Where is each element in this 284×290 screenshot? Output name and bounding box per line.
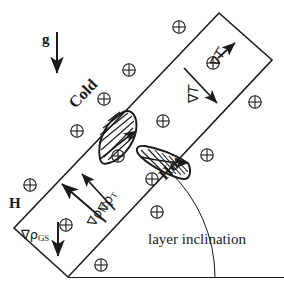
magnetic-field-label: H: [9, 196, 21, 211]
circled-plus-icon: [201, 149, 213, 161]
figure-canvas: g H Cold Hot ∇T ∇T′ ∇ρT ∇ρFD ∇ρGS layer …: [0, 0, 284, 290]
circled-plus-icon: [112, 150, 124, 162]
inclination-caption: layer inclination: [148, 232, 246, 247]
gravity-label: g: [42, 32, 50, 47]
density-gradient-gs-label: ∇ρGS: [21, 228, 49, 243]
circled-plus-icon: [24, 179, 36, 191]
circled-plus-icon: [151, 206, 163, 218]
circled-plus-icon: [173, 21, 185, 33]
nabla-rho-gs-subscript: GS: [38, 233, 49, 243]
circled-plus-icon: [123, 64, 135, 76]
circled-plus-icon: [60, 219, 72, 231]
inclination-arc: [169, 171, 215, 277]
circled-plus-icon: [249, 96, 261, 108]
circled-plus-icon: [146, 173, 158, 185]
nabla-rho-gs-symbol: ∇ρ: [21, 227, 38, 242]
circled-plus-icon: [157, 115, 169, 127]
circled-plus-icon: [98, 93, 110, 105]
circled-plus-icon: [95, 259, 107, 271]
temperature-gradient-label: ∇T: [186, 85, 200, 103]
circled-plus-icon: [71, 125, 83, 137]
